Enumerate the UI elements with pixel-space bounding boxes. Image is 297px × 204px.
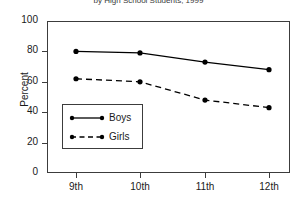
data-point-boys-10th [137, 50, 142, 55]
data-point-boys-11th [202, 59, 207, 64]
data-point-girls-9th [73, 76, 78, 81]
data-series-layer [0, 0, 297, 204]
data-point-boys-9th [73, 49, 78, 54]
legend-label: Boys [109, 111, 131, 125]
legend-label: Girls [109, 130, 130, 144]
data-point-girls-10th [137, 79, 142, 84]
data-point-boys-12th [266, 67, 271, 72]
line-chart: by High School Students, 1999 Percent 10… [0, 0, 297, 204]
legend: Boys Girls [62, 104, 143, 149]
legend-entry-boys: Boys [63, 109, 144, 127]
series-line-boys [76, 51, 269, 69]
legend-entry-girls: Girls [63, 128, 144, 146]
legend-sample-dashed-line-icon [68, 128, 106, 146]
legend-sample-solid-line-icon [68, 109, 106, 127]
data-point-girls-11th [202, 97, 207, 102]
data-point-girls-12th [266, 105, 271, 110]
